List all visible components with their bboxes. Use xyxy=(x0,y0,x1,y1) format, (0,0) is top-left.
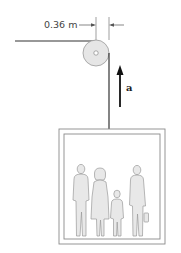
acceleration-arrow-icon xyxy=(117,65,124,107)
diagram-canvas xyxy=(0,0,181,253)
acceleration-label: a xyxy=(126,82,132,93)
dimension-arrow-left xyxy=(79,23,96,26)
pulley-radius-label: 0.36 m xyxy=(44,19,77,30)
dimension-arrow-right xyxy=(109,23,124,26)
pulley-icon xyxy=(83,40,109,66)
